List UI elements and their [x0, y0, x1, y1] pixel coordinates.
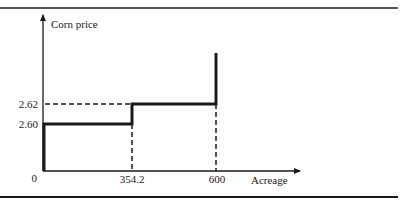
- step-chart-svg: Corn price 2.62 2.60 0 354.2 600 Acreage: [0, 0, 411, 202]
- y-axis-label: Corn price: [51, 18, 98, 30]
- x-tick-354-2: 354.2: [120, 173, 145, 185]
- y-tick-2-60: 2.60: [19, 118, 39, 130]
- x-tick-600: 600: [209, 173, 226, 185]
- origin-label: 0: [32, 172, 38, 184]
- step-function-line: [44, 53, 216, 171]
- chart-figure: Corn price 2.62 2.60 0 354.2 600 Acreage: [0, 0, 411, 202]
- y-tick-2-62: 2.62: [19, 98, 38, 110]
- x-axis-label: Acreage: [251, 174, 288, 186]
